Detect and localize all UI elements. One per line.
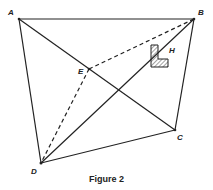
edge-cd	[41, 130, 175, 163]
edge-da	[19, 19, 41, 163]
point-label-b: B	[198, 8, 204, 17]
diagonal-ac	[19, 19, 175, 130]
geometry-diagram	[0, 0, 213, 190]
dashed-ed	[41, 69, 89, 163]
point-label-e: E	[78, 67, 83, 76]
dashed-eb	[89, 19, 194, 69]
point-label-a: A	[8, 8, 14, 17]
shape-label-h: H	[169, 46, 175, 55]
point-label-c: C	[177, 133, 183, 142]
hatched-l-shape	[151, 45, 168, 67]
figure-caption: Figure 2	[0, 174, 213, 184]
figure-2: A B C D E H Figure 2	[0, 0, 213, 190]
diagonal-bd	[41, 19, 194, 163]
edge-bc	[175, 19, 194, 130]
